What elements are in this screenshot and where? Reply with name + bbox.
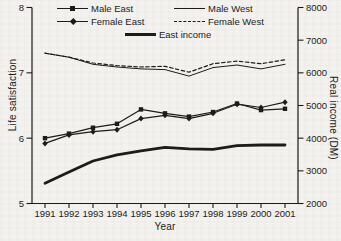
legend-item-male-east: Male East bbox=[57, 3, 174, 14]
y-axis-right-tick-label: 7000 bbox=[306, 35, 327, 46]
x-axis-tick-label: 1999 bbox=[226, 208, 247, 219]
y-axis-right-tick-label: 4000 bbox=[306, 133, 327, 144]
x-axis-tick-label: 1991 bbox=[34, 208, 55, 219]
x-axis-tick-label: 1993 bbox=[82, 208, 103, 219]
legend: Male East Male West Female East Female W… bbox=[57, 2, 273, 41]
male-east-square-marker bbox=[43, 136, 47, 140]
legend-label: Female East bbox=[91, 16, 144, 27]
y-axis-left-tick-label: 5 bbox=[19, 198, 24, 209]
female-east-diamond-marker bbox=[42, 140, 47, 146]
female-west-line-swatch bbox=[174, 18, 205, 25]
male-east-square-marker bbox=[283, 107, 287, 111]
female-east-diamond-marker bbox=[114, 127, 119, 133]
male-east-square-marker bbox=[139, 107, 143, 111]
y-axis-left-tick-label: 6 bbox=[19, 133, 24, 144]
x-axis-tick-label: 1996 bbox=[154, 208, 175, 219]
x-axis-tick-label: 1994 bbox=[106, 208, 127, 219]
legend-label: East income bbox=[159, 29, 211, 40]
x-axis-tick-label: 2001 bbox=[274, 208, 295, 219]
y-axis-right-tick-label: 8000 bbox=[306, 2, 327, 13]
x-axis-tick-label: 2000 bbox=[250, 208, 271, 219]
y-axis-right-tick-label: 5000 bbox=[306, 100, 327, 111]
male-east-square-marker bbox=[115, 122, 119, 126]
female-east-line-swatch bbox=[57, 18, 88, 25]
female-east-diamond-marker bbox=[282, 99, 287, 105]
x-axis-title: Year bbox=[154, 221, 175, 232]
series-line-east-income bbox=[45, 145, 285, 183]
legend-item-female-east: Female East bbox=[57, 16, 174, 27]
male-east-line-swatch bbox=[57, 5, 88, 12]
y-axis-left-tick-label: 8 bbox=[19, 2, 24, 13]
chart-figure: 5678200030004000500060007000800019911992… bbox=[0, 0, 341, 241]
legend-label: Male East bbox=[91, 3, 133, 14]
female-east-diamond-marker bbox=[138, 116, 143, 122]
y-axis-right-tick-label: 6000 bbox=[306, 67, 327, 78]
legend-item-female-west: Female West bbox=[174, 16, 264, 27]
series-line-female-east bbox=[45, 102, 285, 143]
male-west-line-swatch bbox=[174, 5, 205, 12]
legend-item-east-income: East income bbox=[125, 29, 211, 40]
y-axis-left-title: Life satisfaction bbox=[7, 59, 18, 131]
y-axis-left-tick-label: 7 bbox=[19, 67, 24, 78]
legend-label: Female West bbox=[208, 16, 264, 27]
y-axis-right-tick-label: 3000 bbox=[306, 165, 327, 176]
x-axis-tick-label: 1998 bbox=[202, 208, 223, 219]
x-axis-tick-label: 1995 bbox=[130, 208, 151, 219]
legend-item-male-west: Male West bbox=[174, 3, 253, 14]
x-axis-tick-label: 1992 bbox=[58, 208, 79, 219]
east-income-line-swatch bbox=[125, 31, 156, 38]
series-line-male-west bbox=[45, 53, 285, 76]
y-axis-right-tick-label: 2000 bbox=[306, 198, 327, 209]
legend-label: Male West bbox=[208, 3, 253, 14]
y-axis-right-title: Real income (DM) bbox=[328, 76, 339, 160]
x-axis-tick-label: 1997 bbox=[178, 208, 199, 219]
